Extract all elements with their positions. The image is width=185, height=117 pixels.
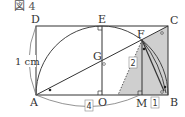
angle-dot-b — [164, 86, 167, 89]
box-label-1: 1 — [153, 99, 158, 108]
box-label-2: 2 — [131, 59, 136, 68]
angle-circle-g — [103, 63, 106, 66]
angle-dot-a — [49, 89, 52, 92]
label-b: B — [170, 96, 178, 109]
label-d: D — [31, 13, 40, 26]
unit-label: 1 cm — [15, 56, 40, 67]
figure-title: 図 4 — [14, 0, 36, 13]
angle-dot-f — [143, 48, 146, 51]
label-g: G — [93, 50, 102, 63]
geometry-diagram: 図 4 D E C F G A O M B 1 cm 4 2 1 — [0, 0, 185, 117]
box-label-4: 4 — [87, 102, 92, 111]
label-c: C — [170, 14, 178, 27]
label-a: A — [29, 96, 39, 109]
right-angle-e — [98, 26, 102, 30]
label-f: F — [137, 28, 145, 41]
label-e: E — [98, 13, 106, 26]
right-angle-o — [98, 91, 102, 95]
label-o: O — [98, 96, 107, 109]
label-m: M — [136, 97, 147, 110]
